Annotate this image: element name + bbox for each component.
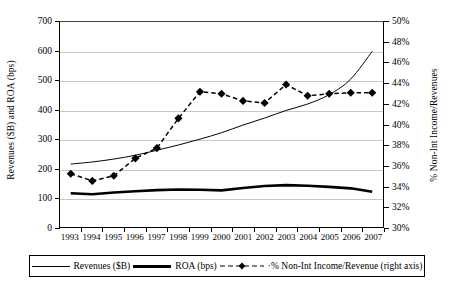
- legend-label-roa: ROA (bps): [175, 261, 216, 271]
- plot-area: [59, 21, 384, 228]
- y-axis-left-tick-label: 400: [18, 105, 52, 115]
- y-axis-right-tick-label: 38%: [392, 140, 426, 150]
- legend-label-revenues: Revenues ($B): [74, 261, 131, 271]
- y-axis-left-tick-label: 100: [18, 193, 52, 203]
- y-axis-right-tick-mark: [384, 207, 389, 208]
- y-axis-right-tick-mark: [384, 166, 389, 167]
- legend-item-revenues: Revenues ($B): [32, 261, 131, 271]
- legend-line-revenues: [32, 261, 70, 271]
- y-axis-right-tick-label: 50%: [392, 16, 426, 26]
- x-axis-tick-mark: [384, 228, 385, 232]
- legend-item-noninterest: ·% Non-Int Income/Revenue (right axis): [220, 261, 423, 271]
- data-point-marker: [304, 92, 312, 100]
- y-axis-right-tick-label: 42%: [392, 99, 426, 109]
- data-point-marker: [260, 99, 268, 107]
- legend-item-roa: ROA (bps): [133, 261, 216, 271]
- chart-container: Revenues ($B) and ROA (bps) % Non-Int In…: [0, 0, 454, 289]
- y-axis-right-tick-label: 48%: [392, 37, 426, 47]
- y-axis-right-tick-label: 34%: [392, 182, 426, 192]
- y-axis-right-tick-label: 32%: [392, 202, 426, 212]
- y-axis-left-tick-label: 600: [18, 46, 52, 56]
- legend-dashed-diamond-icon: [220, 261, 264, 271]
- series-2: [71, 185, 372, 194]
- y-axis-right-tick-mark: [384, 125, 389, 126]
- series-1: [71, 51, 372, 164]
- y-axis-left-title: Revenues ($B) and ROA (bps): [2, 40, 20, 200]
- data-point-marker: [347, 89, 355, 97]
- legend-line-roa: [133, 261, 171, 271]
- data-point-marker: [67, 170, 75, 178]
- y-axis-left-tick-mark: [55, 228, 60, 229]
- y-axis-right-tick-mark: [384, 62, 389, 63]
- y-axis-right-tick-mark: [384, 187, 389, 188]
- chart-legend: Revenues ($B) ROA (bps) ·% Non-Int Incom…: [29, 255, 425, 277]
- data-point-marker: [282, 80, 290, 88]
- y-axis-left-tick-label: 300: [18, 134, 52, 144]
- y-axis-right-tick-mark: [384, 42, 389, 43]
- y-axis-right-tick-label: 30%: [392, 223, 426, 233]
- data-point-marker: [88, 177, 96, 185]
- data-point-marker: [368, 89, 376, 97]
- y-axis-right-tick-mark: [384, 83, 389, 84]
- y-axis-left-tick-label: 0: [18, 223, 52, 233]
- y-axis-right-tick-label: 44%: [392, 78, 426, 88]
- y-axis-right-tick-label: 40%: [392, 120, 426, 130]
- data-point-marker: [217, 90, 225, 98]
- y-axis-right-tick-mark: [384, 21, 389, 22]
- y-axis-right-tick-label: 36%: [392, 161, 426, 171]
- y-axis-right-title: % Non-Int Income/Revenues: [425, 40, 443, 210]
- y-axis-left-tick-label: 700: [18, 16, 52, 26]
- data-point-marker: [239, 97, 247, 105]
- y-axis-right-tick-mark: [384, 104, 389, 105]
- legend-line-noninterest: [220, 261, 264, 271]
- y-axis-right-tick-mark: [384, 145, 389, 146]
- y-axis-right-tick-label: 46%: [392, 57, 426, 67]
- legend-label-noninterest: ·% Non-Int Income/Revenue (right axis): [268, 261, 423, 271]
- x-axis-tick-label: 2007: [356, 232, 390, 242]
- series-layer: [60, 22, 383, 227]
- y-axis-left-tick-label: 500: [18, 75, 52, 85]
- data-point-marker: [196, 88, 204, 96]
- y-axis-left-tick-label: 200: [18, 164, 52, 174]
